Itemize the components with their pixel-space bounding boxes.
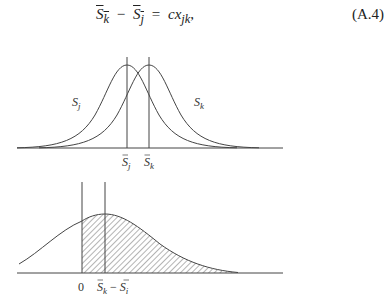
label-sj: Sj bbox=[72, 95, 81, 111]
top-distributions: Sj Sk Sj Sk bbox=[17, 57, 283, 171]
label-mean-sk: Sk bbox=[144, 155, 155, 171]
figure: Sj Sk Sj Sk 0 Sk − Si bbox=[0, 0, 390, 297]
label-sk: Sk bbox=[194, 95, 205, 111]
bottom-distribution: 0 Sk − Si bbox=[17, 182, 283, 296]
label-mean-diff: Sk − Si bbox=[97, 280, 129, 296]
label-mean-sj: Sj bbox=[122, 155, 131, 171]
label-zero: 0 bbox=[78, 280, 84, 294]
